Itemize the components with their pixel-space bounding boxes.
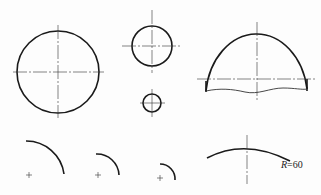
- arc-medium: [95, 154, 119, 178]
- large-circle: [13, 25, 104, 118]
- arc-r60: [207, 135, 290, 184]
- radius-value: =60: [287, 159, 303, 170]
- small-circle: [140, 89, 165, 117]
- broken-dome: [197, 22, 316, 102]
- arc-small: [157, 164, 175, 181]
- technical-drawing: [0, 0, 321, 195]
- drawing-canvas: R=60: [0, 0, 321, 195]
- arc-large: [26, 141, 64, 178]
- radius-label: R=60: [281, 159, 303, 170]
- medium-circle: [122, 10, 182, 73]
